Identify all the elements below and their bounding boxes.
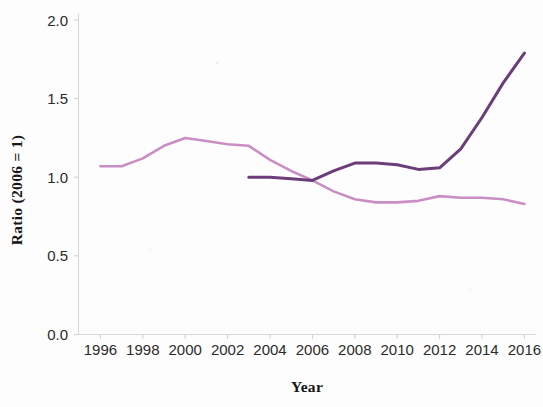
y-tick-label: 0.5 (47, 247, 68, 264)
y-tick-label: 1.0 (47, 169, 68, 186)
x-tick-label: 2010 (381, 341, 414, 358)
y-axis-tickmarks (74, 20, 79, 335)
series-line-dark-purple (249, 53, 525, 180)
x-tick-label: 2000 (169, 341, 202, 358)
chart-canvas: 0.0 0.5 1.0 1.5 2.0 1996 1998 2000 2002 … (0, 0, 543, 407)
x-tick-label: 1996 (84, 341, 117, 358)
x-tick-label: 2014 (465, 341, 498, 358)
x-axis-title: Year (291, 378, 323, 395)
x-tick-label: 2002 (211, 341, 244, 358)
x-tick-label: 2006 (296, 341, 329, 358)
x-tick-label: 2008 (338, 341, 371, 358)
series-group (100, 53, 524, 204)
y-tick-label: 0.0 (47, 326, 68, 343)
x-tick-label: 1998 (126, 341, 159, 358)
x-tick-label: 2004 (253, 341, 286, 358)
x-axis-tickmarks (100, 335, 524, 340)
chart-figure: 0.0 0.5 1.0 1.5 2.0 1996 1998 2000 2002 … (0, 0, 543, 407)
y-axis-tick-labels: 0.0 0.5 1.0 1.5 2.0 (47, 12, 68, 344)
scan-artifacts (149, 62, 471, 291)
x-tick-label: 2016 (508, 341, 541, 358)
x-tick-label: 2012 (423, 341, 456, 358)
y-axis-title: Ratio (2006 = 1) (8, 135, 26, 246)
y-tick-label: 1.5 (47, 90, 68, 107)
x-axis-tick-labels: 1996 1998 2000 2002 2004 2006 2008 2010 … (84, 341, 541, 358)
y-tick-label: 2.0 (47, 12, 68, 29)
